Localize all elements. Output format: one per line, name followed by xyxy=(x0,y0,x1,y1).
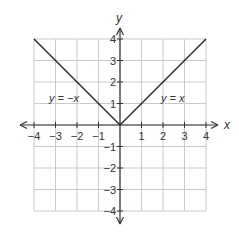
x-tick-labels: −4−3−2−11234 xyxy=(28,130,209,142)
y-tick-label: −1 xyxy=(103,141,116,153)
x-tick-label: 2 xyxy=(160,130,166,142)
x-tick-label: 4 xyxy=(203,130,209,142)
equation-label-right: y = x xyxy=(160,92,185,104)
x-tick-label: 1 xyxy=(138,130,144,142)
x-tick-label: −2 xyxy=(71,130,84,142)
x-axis-label: x xyxy=(223,118,231,132)
x-tick-label: −3 xyxy=(49,130,62,142)
y-tick-label: −4 xyxy=(103,205,116,217)
absolute-value-chart: x y y = −x y = x −4−3−2−11234 4321−1−2−3… xyxy=(0,0,239,233)
x-tick-label: 3 xyxy=(181,130,187,142)
y-tick-label: 4 xyxy=(110,33,116,45)
x-tick-label: −4 xyxy=(28,130,41,142)
y-tick-label: 1 xyxy=(110,98,116,110)
equation-label-left: y = −x xyxy=(48,92,79,104)
y-tick-label: 2 xyxy=(110,76,116,88)
y-tick-label: 3 xyxy=(110,55,116,67)
x-axis xyxy=(20,122,218,129)
y-axis-label: y xyxy=(115,11,123,25)
y-tick-label: −3 xyxy=(103,184,116,196)
y-axis xyxy=(117,28,124,224)
y-tick-label: −2 xyxy=(103,162,116,174)
